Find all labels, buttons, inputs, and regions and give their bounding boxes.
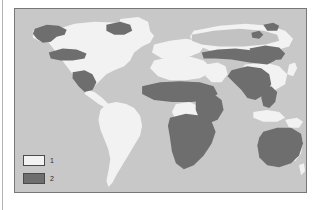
legend-label-2: 2: [50, 175, 54, 182]
legend-swatch-1: [23, 155, 45, 166]
legend-label-1: 1: [50, 157, 54, 164]
legend-swatch-2: [23, 173, 45, 184]
map-frame: 1 2: [14, 8, 307, 193]
legend-item-2: 2: [23, 173, 54, 184]
world-map-graphic: [15, 9, 306, 192]
legend-item-1: 1: [23, 155, 54, 166]
figure-root: 1 2: [0, 0, 330, 210]
page-edge-rule: [2, 0, 3, 210]
map-legend: 1 2: [23, 155, 54, 184]
